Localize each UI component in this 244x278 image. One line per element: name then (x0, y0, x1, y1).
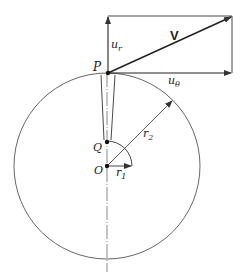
velocity-vector-arrow (108, 17, 231, 73)
label-p: P (92, 60, 102, 74)
radius-r2-arrow (107, 101, 172, 166)
label-q: Q (93, 141, 102, 154)
point-p-dot (106, 71, 110, 75)
label-r1: r1 (116, 166, 126, 181)
label-r2: r2 (143, 127, 153, 142)
velocity-diagram: P Q O V ur uθ r2 r1 (0, 0, 244, 278)
slot-right-edge (111, 75, 115, 140)
point-q-dot (105, 140, 109, 144)
label-u-theta: uθ (168, 74, 180, 89)
label-v: V (170, 28, 179, 43)
slot-left-edge (101, 75, 104, 140)
label-o: O (94, 164, 103, 177)
label-u-r: ur (111, 38, 123, 53)
point-o-dot (105, 164, 109, 168)
